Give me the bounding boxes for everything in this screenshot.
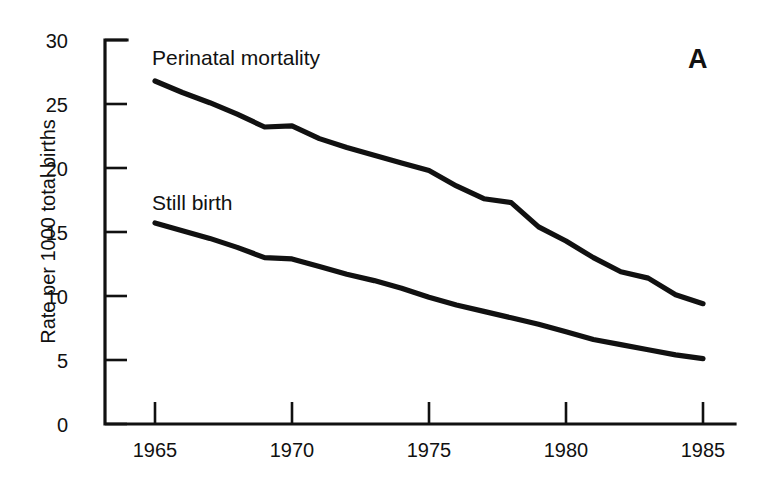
series-label-perinatal-mortality: Perinatal mortality bbox=[152, 47, 320, 68]
x-tick-label-1965: 1965 bbox=[115, 440, 195, 460]
y-tick-label-30: 30 bbox=[22, 31, 68, 51]
series-label-still-birth: Still birth bbox=[152, 192, 233, 213]
y-tick-label-5: 5 bbox=[22, 351, 68, 371]
y-tick-label-15: 15 bbox=[22, 223, 68, 243]
y-tick-label-20: 20 bbox=[22, 159, 68, 179]
x-tick-label-1975: 1975 bbox=[389, 440, 469, 460]
chart-canvas bbox=[0, 0, 758, 502]
y-tick-label-10: 10 bbox=[22, 287, 68, 307]
series-line-still-birth bbox=[155, 223, 703, 359]
series-line-perinatal-mortality bbox=[155, 81, 703, 304]
figure-panel-a: Rate per 1000 total births 0 5 10 15 20 … bbox=[0, 0, 758, 502]
x-tick-label-1970: 1970 bbox=[252, 440, 332, 460]
y-tick-label-25: 25 bbox=[22, 95, 68, 115]
x-tick-label-1980: 1980 bbox=[526, 440, 606, 460]
y-tick-label-0: 0 bbox=[22, 415, 68, 435]
y-axis-ticks bbox=[105, 40, 127, 424]
x-axis-ticks bbox=[155, 402, 703, 424]
panel-letter: A bbox=[688, 46, 708, 73]
x-tick-label-1985: 1985 bbox=[663, 440, 743, 460]
